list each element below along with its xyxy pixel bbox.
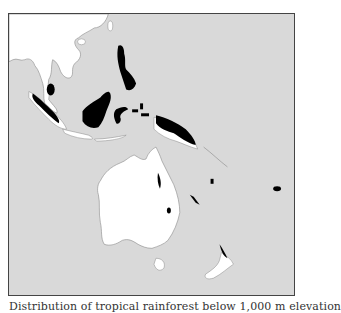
fiji-forest	[273, 186, 281, 191]
queensland-forest-south	[167, 208, 171, 214]
distribution-map	[9, 14, 294, 295]
halmahera-forest	[140, 103, 143, 109]
malaya-forest	[47, 84, 55, 96]
seram-forest	[141, 113, 149, 116]
moluccas-forest	[132, 109, 138, 112]
vanuatu-forest	[211, 179, 214, 184]
taiwan	[108, 21, 113, 31]
hainan	[78, 39, 86, 45]
figure-caption: Distribution of tropical rainforest belo…	[9, 300, 341, 313]
map-frame	[8, 13, 295, 296]
